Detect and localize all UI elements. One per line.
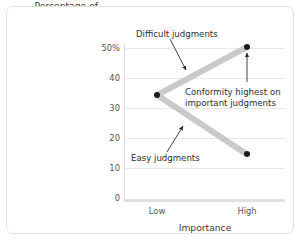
difficult-judgments-leader <box>170 39 186 70</box>
chart-canvas: Percentage of conformity to confederates… <box>0 0 303 242</box>
annotation-conformity-callout: Conformity highest on important judgment… <box>185 87 281 110</box>
annotation-conformity-callout-line-1: Conformity highest on <box>185 87 281 98</box>
annotation-easy-judgments: Easy judgments <box>131 153 200 164</box>
annotation-difficult-judgments: Difficult judgments <box>136 29 218 40</box>
annotation-conformity-callout-line-2: important judgments <box>185 98 281 109</box>
easy-judgments-leader <box>167 126 183 152</box>
